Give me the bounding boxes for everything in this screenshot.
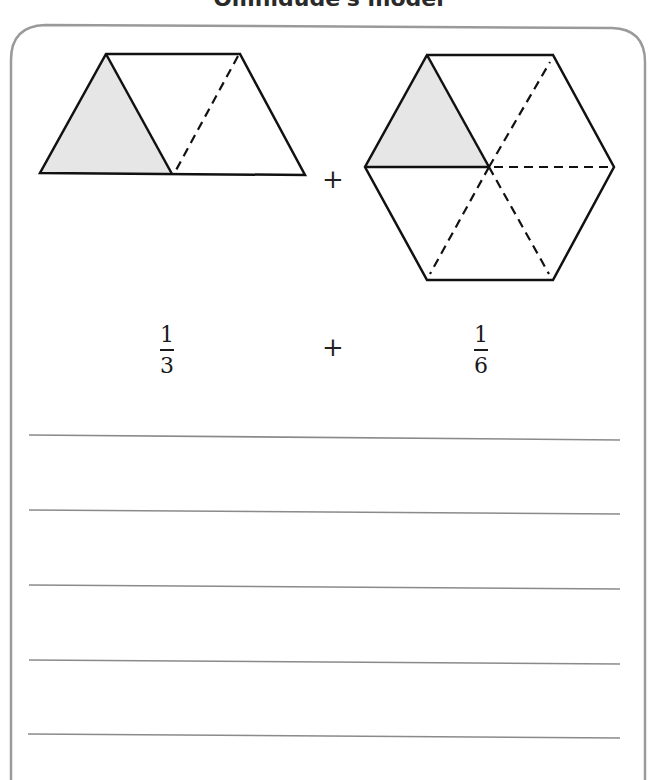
hexagon-sixths	[365, 55, 614, 280]
numerator: 1	[152, 323, 182, 347]
answer-line[interactable]	[29, 660, 620, 664]
plus-sign-fractions: +	[322, 332, 344, 362]
plus-sign-shapes: +	[322, 164, 344, 194]
fraction-bar	[160, 349, 174, 351]
denominator: 3	[152, 354, 182, 378]
answer-line[interactable]	[28, 734, 620, 738]
answer-lines	[28, 435, 620, 738]
numerator: 1	[466, 323, 496, 347]
answer-line[interactable]	[29, 435, 620, 440]
fraction-one-third: 1 3	[152, 323, 182, 378]
model-drawing: +	[0, 0, 657, 780]
shaded-sixth	[365, 55, 488, 167]
fraction-one-sixth: 1 6	[466, 323, 496, 378]
shaded-third	[40, 54, 172, 174]
answer-line[interactable]	[29, 585, 620, 589]
denominator: 6	[466, 354, 496, 378]
fraction-bar	[474, 349, 488, 351]
answer-line[interactable]	[29, 510, 620, 514]
trapezoid-thirds	[40, 54, 305, 175]
